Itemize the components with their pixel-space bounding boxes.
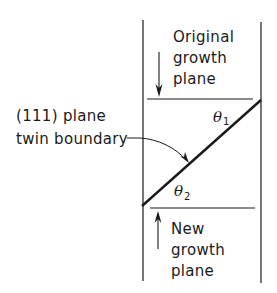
svg-text:2: 2 [184, 191, 190, 202]
leader-arrow-icon [127, 138, 189, 163]
twin-boundary-diagram: Original growth plane New growth plane (… [0, 0, 277, 293]
svg-text:1: 1 [223, 116, 229, 127]
svg-text:θ: θ [174, 182, 183, 200]
theta1-label: θ 1 [213, 108, 229, 127]
twin-boundary-line [142, 100, 261, 206]
svg-text:θ: θ [213, 108, 222, 126]
twin-boundary-label: (111) plane twin boundary [16, 107, 128, 148]
down-arrow-icon [156, 52, 163, 97]
new-growth-label: New growth plane [171, 220, 230, 280]
original-growth-label: Original growth plane [173, 28, 239, 88]
up-arrow-icon [155, 211, 162, 249]
theta2-label: θ 2 [174, 182, 190, 202]
